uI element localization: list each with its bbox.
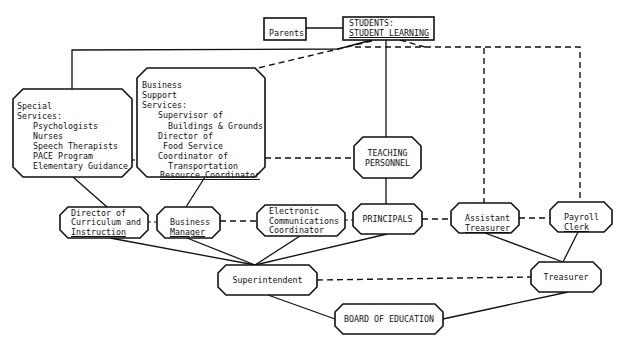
business-manager-line1: Business [170,217,210,227]
business-manager-line2: Manager [170,227,205,237]
teaching-personnel-node: TEACHING PERSONNEL [354,137,421,178]
board-of-education-node: BOARD OF EDUCATION [335,304,443,334]
edge-payroll-treasurer [563,232,578,262]
principals-node: PRINCIPALS [353,204,422,234]
treasurer-node: Treasurer [531,262,601,292]
edge-students-dash-stub [400,40,425,47]
business-support-item: Resource Coordinator [160,170,260,180]
edge-bizmgr-superintendent [187,238,255,265]
assistant-treasurer-line1: Assistant [465,213,510,223]
business-support-item: Director of [158,131,213,141]
connector-layer [0,0,627,348]
business-support-item: Buildings & Grounds [168,121,263,131]
edge-electronic-superintendent [255,236,300,265]
edge-special-director [73,177,107,207]
electronic-comm-line3: Coordinator [269,225,324,235]
edge-principals-superintendent [255,234,387,265]
superintendent-label: Superintendent [233,275,303,285]
special-services-item: Speech Therapists [33,141,118,151]
special-services-title-1: Special [17,101,52,111]
business-support-title-2: Support [142,90,177,100]
business-support-item: Food Service [163,141,223,151]
business-support-item: Supervisor of [158,110,223,120]
business-support-title-1: Business [142,80,182,90]
edge-business-manager [186,177,205,207]
edge-superintendent-treasurer [317,277,531,280]
edge-asst-treasurer [485,233,563,262]
students-label-line2: STUDENT LEARNING [349,28,429,38]
special-services-item: Psychologists [33,121,98,131]
students-label-line1: STUDENTS: [349,18,394,28]
edge-superintendent-board [268,295,335,319]
principals-label: PRINCIPALS [363,214,413,224]
treasurer-label: Treasurer [544,272,589,282]
special-services-item: PACE Program [33,151,93,161]
teaching-personnel-line1: TEACHING [368,148,408,158]
director-curriculum-line3: Instruction [71,227,126,237]
parents-label: Parents [269,28,304,38]
edge-director-superintendent [110,238,255,265]
superintendent-node: Superintendent [218,265,317,295]
edge-treasurer-board [443,292,568,319]
business-support-item: Coordinator of [158,151,228,161]
business-support-title-3: Services: [142,100,187,110]
director-curriculum-line2: Curriculum and [71,217,141,227]
assistant-treasurer-line2: Treasurer [465,223,510,233]
electronic-comm-line1: Electronic [269,206,319,216]
special-services-item: Elementary Guidance [33,161,128,171]
org-chart: Parents STUDENTS: STUDENT LEARNING Speci… [0,0,627,348]
payroll-clerk-line1: Payroll [564,212,599,222]
payroll-clerk-line2: Clerk [564,222,589,232]
board-of-education-label: BOARD OF EDUCATION [344,314,434,324]
special-services-title-2: Services: [17,111,62,121]
special-services-item: Nurses [33,131,63,141]
teaching-personnel-line2: PERSONNEL [365,158,410,168]
